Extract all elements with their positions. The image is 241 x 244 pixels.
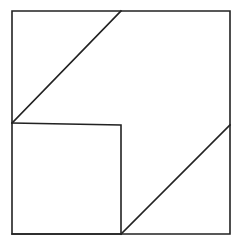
inner-square: [12, 123, 121, 234]
upper-diagonal-line: [12, 11, 121, 123]
lower-diagonal-line: [121, 125, 230, 234]
dissection-diagram: [0, 0, 241, 244]
